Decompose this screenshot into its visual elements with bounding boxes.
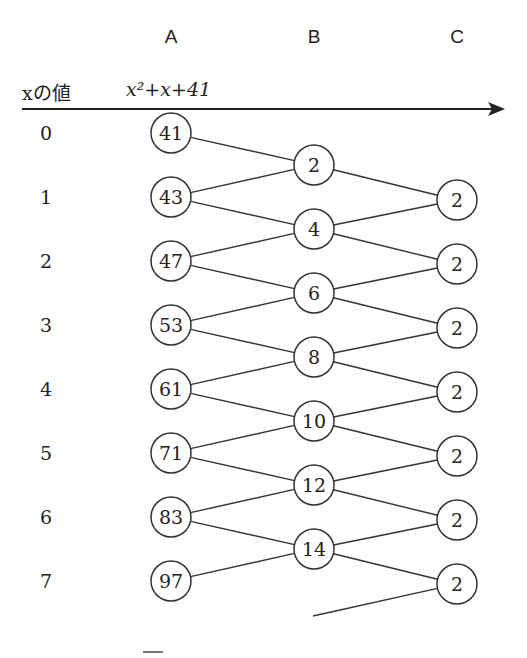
connector-line [333,554,437,579]
connector-line [191,361,295,384]
connector-line [333,170,437,195]
connector-line [191,169,295,192]
svg-text:12: 12 [302,474,326,496]
connector-line [334,524,438,545]
node-b-3: 8 [294,337,334,377]
connector-line [191,553,295,576]
node-b-6: 14 [294,529,334,569]
connector-line [191,393,295,416]
node-b-1: 4 [294,209,334,249]
connector-line [334,332,438,353]
svg-text:4: 4 [308,218,320,240]
node-c-4: 2 [437,436,477,476]
svg-text:8: 8 [308,346,320,368]
connector-line [191,233,295,256]
node-a-7: 97 [151,561,191,601]
svg-text:97: 97 [159,570,183,592]
connector-line [333,362,437,387]
connector-line [334,396,438,417]
node-b-2: 6 [294,273,334,313]
svg-text:43: 43 [159,186,183,208]
connector-line [191,201,295,224]
svg-text:61: 61 [159,378,183,400]
connector-line [333,426,437,451]
node-a-5: 71 [151,433,191,473]
connector-line [333,234,437,259]
node-c-2: 2 [437,308,477,348]
svg-text:47: 47 [159,250,183,272]
svg-text:2: 2 [308,154,320,176]
connector-line [191,297,295,320]
node-a-6: 83 [151,497,191,537]
node-c-1: 2 [437,244,477,284]
connector-line [191,329,295,352]
node-b-5: 12 [294,465,334,505]
node-a-1: 43 [151,177,191,217]
connector-line [191,489,295,512]
node-b-4: 10 [294,401,334,441]
connector-line [334,268,438,289]
svg-text:2: 2 [451,573,463,595]
connector-line [191,137,295,160]
connector-line [191,521,295,544]
svg-text:2: 2 [451,381,463,403]
svg-text:2: 2 [451,317,463,339]
connector-line [191,425,295,448]
svg-text:2: 2 [451,189,463,211]
node-b-0: 2 [294,145,334,185]
node-a-4: 61 [151,369,191,409]
connector-line [333,490,437,515]
node-a-0: 41 [151,113,191,153]
svg-text:14: 14 [302,538,326,560]
trailing-connector-line [313,588,437,616]
svg-text:53: 53 [159,314,183,336]
node-c-5: 2 [437,500,477,540]
node-a-3: 53 [151,305,191,345]
node-c-0: 2 [437,180,477,220]
difference-diagram: 414347536171839724681012142222222 [0,0,527,658]
svg-text:71: 71 [159,442,183,464]
connector-line [191,457,295,480]
connector-line [334,204,438,225]
svg-text:10: 10 [302,410,326,432]
svg-text:83: 83 [159,506,183,528]
node-c-6: 2 [437,564,477,604]
svg-text:6: 6 [308,282,320,304]
figure-caption-partial [143,651,163,658]
connector-line [333,298,437,323]
svg-text:2: 2 [451,445,463,467]
connector-line [191,265,295,288]
node-c-3: 2 [437,372,477,412]
svg-text:2: 2 [451,253,463,275]
svg-text:2: 2 [451,509,463,531]
node-a-2: 47 [151,241,191,281]
connector-line [334,460,438,481]
svg-text:41: 41 [159,122,183,144]
